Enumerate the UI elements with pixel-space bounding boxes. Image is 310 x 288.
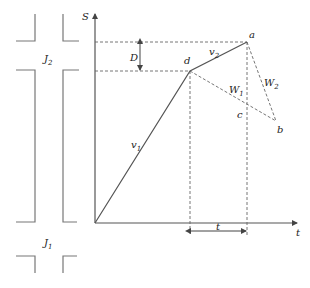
trajectory: [95, 42, 247, 223]
label-j2: J2: [42, 53, 53, 67]
point-c-label: c: [237, 109, 243, 120]
v2-label: v2: [209, 46, 220, 60]
point-a-label: a: [249, 29, 255, 40]
reference-lines: [95, 42, 276, 235]
w2-label: W2: [264, 77, 279, 91]
d-dimension-label: D: [129, 52, 138, 63]
diagram-canvas: J2 J1 S t D t a d b c v1 v2 W1 W2: [0, 0, 310, 288]
label-j1: J1: [42, 237, 52, 251]
intersection-j2: [16, 14, 79, 222]
w1-label: W1: [229, 84, 244, 98]
point-d-label: d: [184, 55, 190, 66]
intersection-j1: [16, 256, 77, 273]
v1-label: v1: [131, 139, 141, 153]
t-axis-label: t: [296, 227, 301, 238]
point-b-label: b: [277, 124, 283, 135]
s-axis-label: S: [82, 11, 89, 22]
